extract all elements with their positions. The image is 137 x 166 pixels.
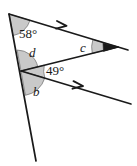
upper-arrow-marker-icon (56, 21, 67, 29)
angle-label-b: b (33, 85, 40, 98)
angle-label-d: d (29, 46, 36, 59)
angle-label-c: c (80, 41, 86, 54)
lower-arrow-marker-icon (73, 81, 84, 89)
angle-label-58: 58° (19, 27, 37, 40)
angle-label-49: 49° (46, 64, 64, 77)
geometry-canvas (0, 0, 137, 166)
geometry-diagram: 58° d 49° b c (0, 0, 137, 166)
